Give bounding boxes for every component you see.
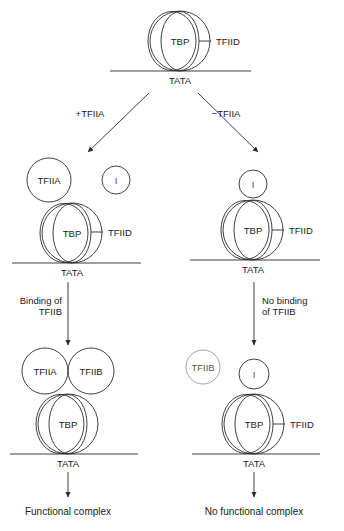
middle-left-complex-shape	[12, 158, 141, 263]
branch-right-label: −TFIIA	[212, 108, 241, 119]
bottom-right-tfiid-label: TFIID	[290, 419, 314, 430]
middle-right-tata-label: TATA	[242, 264, 264, 275]
outcome-right-label: No functional complex	[205, 506, 303, 517]
bottom-left-complex-shape	[10, 348, 138, 454]
transition-right-line2: of TFIIB	[262, 306, 296, 317]
middle-right-tbp-label: TBP	[244, 225, 262, 236]
middle-left-tfiia-label: TFIIA	[37, 175, 60, 186]
transition-left-line1: Binding of	[20, 295, 62, 306]
top-tata-label: TATA	[169, 75, 191, 86]
bottom-right-free-tfiib-label: TFIIB	[191, 362, 214, 373]
middle-right-tfiid-label: TFIID	[289, 225, 313, 236]
bottom-right-complex-shape	[192, 359, 320, 454]
middle-right-factor-label: I	[252, 179, 255, 190]
bottom-left-tbp-label: TBP	[59, 419, 77, 430]
top-tfiid-label: TFIID	[216, 36, 240, 47]
middle-left-free-factor-label: I	[115, 175, 118, 186]
bottom-left-tfiib-label: TFIIB	[79, 366, 102, 377]
bottom-left-tata-label: TATA	[57, 458, 79, 469]
outcome-left-label: Functional complex	[25, 506, 111, 517]
transition-right-line1: No binding	[262, 295, 307, 306]
bottom-right-tbp-label: TBP	[245, 419, 263, 430]
bottom-right-factor-label: I	[253, 369, 256, 380]
top-tbp-label: TBP	[171, 36, 189, 47]
branch-arrow-left	[88, 93, 149, 152]
middle-left-tbp-label: TBP	[63, 228, 81, 239]
transition-left-line2: TFIIB	[39, 306, 62, 317]
middle-left-tfiid-label: TFIID	[108, 227, 132, 238]
branch-arrow-right	[198, 93, 258, 152]
middle-left-tata-label: TATA	[61, 267, 83, 278]
bottom-left-tfiia-label: TFIIA	[33, 366, 56, 377]
branch-left-label: +TFIIA	[76, 108, 105, 119]
bottom-right-tata-label: TATA	[243, 458, 265, 469]
middle-right-complex-shape	[190, 170, 320, 260]
